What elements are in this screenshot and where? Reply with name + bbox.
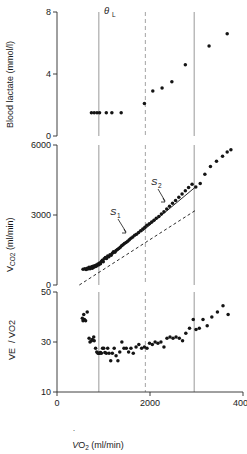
vco2-data-point	[180, 192, 184, 196]
ve-vo2-data-point	[145, 347, 149, 351]
blood-lactate-data-point	[119, 111, 123, 115]
ve-vo2-data-point	[151, 343, 155, 347]
vco2-data-point	[174, 199, 178, 203]
vco2-data-point	[171, 202, 175, 206]
ve-vo2-data-point	[120, 340, 124, 344]
x-tick-label: 0	[54, 398, 59, 408]
ve-vo2-data-point	[198, 327, 202, 331]
ve-vo2-data-point	[178, 337, 182, 341]
ve-vo2-data-point	[102, 347, 106, 351]
vco2-data-point	[168, 204, 172, 208]
vco2-data-point	[190, 182, 194, 186]
ve-vo2-data-point	[127, 350, 131, 354]
vco2-data-point	[225, 150, 229, 154]
s1-arrow-head	[122, 229, 126, 233]
blood-lactate-data-point	[207, 44, 211, 48]
vco2-data-point	[221, 154, 225, 158]
blood-lactate-data-point	[160, 86, 164, 90]
ve-vo2-data-point	[107, 352, 111, 356]
ve-vo2-data-point	[181, 339, 185, 343]
ve-vo2-data-point	[111, 352, 115, 356]
ve-vo2-data-point	[201, 318, 205, 322]
figure-canvas: 048030006000103050020004000	[0, 0, 247, 454]
vco2-data-point	[203, 172, 207, 176]
vco2-y-tick-label: 3000	[31, 210, 51, 220]
ve-vo2-data-point	[134, 345, 138, 349]
ve-vo2-data-point	[194, 328, 198, 332]
vco2-data-point	[184, 189, 188, 193]
ve-vo2-data-point	[159, 340, 163, 344]
blood-lactate-y-tick-label: 4	[46, 69, 51, 79]
blood-lactate-data-point	[151, 89, 155, 93]
ve-vo2-data-point	[221, 304, 225, 308]
blood-lactate-y-tick-label: 8	[46, 7, 51, 17]
blood-lactate-data-point	[143, 102, 147, 106]
ve-vo2-data-point	[106, 347, 110, 351]
vco2-data-point	[194, 185, 198, 189]
ve-vo2-data-point	[210, 315, 214, 319]
x-tick-label: 4000	[233, 398, 247, 408]
s2-arrow-head	[161, 198, 165, 202]
blood-lactate-data-point	[170, 80, 174, 84]
ve-vo2-y-tick-label: 10	[41, 387, 51, 397]
blood-lactate-data-point	[225, 32, 229, 36]
vco2-data-point	[229, 148, 233, 152]
ve-vo2-data-point	[92, 339, 96, 343]
x-tick-label: 2000	[140, 398, 160, 408]
ve-vo2-y-tick-label: 50	[41, 287, 51, 297]
ve-vo2-data-point	[188, 327, 192, 331]
vco2-data-point	[162, 210, 166, 214]
fit-line-s1	[79, 210, 195, 285]
blood-lactate-data-point	[184, 63, 188, 67]
ve-vo2-data-point	[174, 335, 178, 339]
ve-vo2-data-point	[132, 352, 136, 356]
ve-vo2-data-point	[112, 347, 116, 351]
ve-vo2-data-point	[226, 313, 230, 317]
ve-vo2-data-point	[85, 310, 89, 314]
vco2-data-point	[187, 186, 191, 190]
ve-vo2-data-point	[92, 335, 96, 339]
ve-vo2-data-point	[118, 350, 122, 354]
ve-vo2-data-point	[205, 324, 209, 328]
vco2-data-point	[215, 160, 219, 164]
vco2-data-point	[198, 182, 202, 186]
ve-vo2-data-point	[125, 347, 129, 351]
physiology-three-panel-figure: 048030006000103050020004000 Blood lactat…	[0, 0, 247, 454]
ve-vo2-data-point	[192, 318, 196, 322]
vco2-data-point	[177, 196, 181, 200]
ve-vo2-data-point	[168, 335, 172, 339]
vco2-data-point	[209, 165, 213, 169]
ve-vo2-data-point	[216, 310, 220, 314]
ve-vo2-data-point	[162, 345, 166, 349]
ve-vo2-data-point	[165, 337, 169, 341]
ve-vo2-data-point	[94, 347, 98, 351]
vco2-data-point	[165, 207, 169, 211]
ve-vo2-data-point	[184, 332, 188, 336]
ve-vo2-y-tick-label: 30	[41, 337, 51, 347]
ve-vo2-data-point	[100, 352, 104, 356]
blood-lactate-data-point	[105, 111, 109, 115]
blood-lactate-data-point	[110, 111, 114, 115]
ve-vo2-data-point	[171, 337, 175, 341]
blood-lactate-data-point	[98, 111, 102, 115]
ve-vo2-data-point	[114, 354, 118, 358]
ve-vo2-data-point	[82, 313, 86, 317]
ve-vo2-data-point	[84, 319, 88, 323]
ve-vo2-data-point	[137, 343, 141, 347]
ve-vo2-data-point	[129, 347, 133, 351]
ve-vo2-data-point	[156, 342, 160, 346]
ve-vo2-data-point	[116, 359, 120, 363]
vco2-y-tick-label: 6000	[31, 140, 51, 150]
ve-vo2-data-point	[109, 359, 113, 363]
